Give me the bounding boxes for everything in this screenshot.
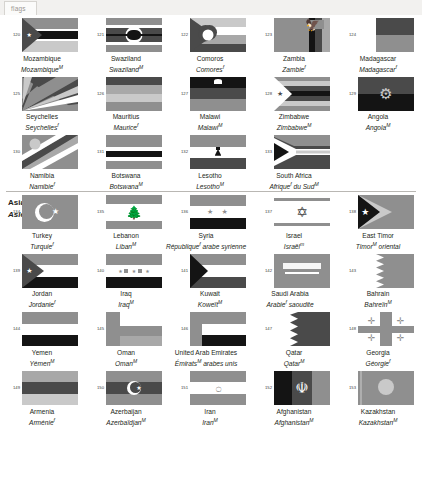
flag-cell-bahrain[interactable]: 143 Bahrain BahreïnM bbox=[336, 251, 420, 310]
flag-with-number: 125 bbox=[0, 77, 84, 111]
flag-index-number: 120 bbox=[6, 18, 22, 37]
flag-caption: Mozambique MozambiqueM bbox=[0, 55, 84, 74]
flag-cell-saudi[interactable]: 142 Saudi Arabia Arabief saoudite bbox=[252, 251, 336, 310]
flag-image-yemen bbox=[22, 312, 78, 346]
flag-with-number: 150 ★ bbox=[84, 371, 168, 405]
flag-with-number: 143 bbox=[336, 254, 420, 288]
flag-name-fr: Arménief bbox=[0, 416, 84, 427]
flag-index-number: 141 bbox=[174, 254, 190, 273]
flag-cell-zambia[interactable]: 123 🦅 Zambia Zambief bbox=[252, 15, 336, 74]
section-africa-cont: 120 ★ Mozambique MozambiqueM 121 Swazila… bbox=[0, 15, 422, 191]
flag-name-fr: YémenM bbox=[0, 357, 84, 368]
flags-reference-page: 120 ★ Mozambique MozambiqueM 121 Swazila… bbox=[0, 15, 422, 482]
flag-with-number: 131 bbox=[84, 135, 168, 169]
flag-caption: Armenia Arménief bbox=[0, 408, 84, 427]
flag-index-number: 138 bbox=[342, 195, 358, 214]
flag-cell-armenia[interactable]: 149 Armenia Arménief bbox=[0, 368, 84, 427]
flag-name-fr: QatarM bbox=[252, 357, 336, 368]
flag-name-en: Angola bbox=[336, 113, 420, 121]
flag-cell-madagascar[interactable]: 124 Madagascar Madagascarf bbox=[336, 15, 420, 74]
flag-cell-mozambique[interactable]: 120 ★ Mozambique MozambiqueM bbox=[0, 15, 84, 74]
flag-cell-zimbabwe[interactable]: 128 ★ Zimbabwe ZimbabweM bbox=[252, 74, 336, 133]
flag-name-en: Bahrain bbox=[336, 290, 420, 298]
flag-image-armenia bbox=[22, 371, 78, 405]
flag-caption: Georgia Géorgief bbox=[336, 349, 420, 368]
flag-cell-seychelles[interactable]: 125 Seychelles Seychellesf bbox=[0, 74, 84, 133]
flag-cell-syria[interactable]: 136 ★★ Syria Républiquef arabe syrienne bbox=[168, 192, 252, 251]
flag-name-en: Malawi bbox=[168, 113, 252, 121]
flag-with-number: 140 ★★★ bbox=[84, 254, 168, 288]
flag-cell-turkey[interactable]: 134 ★ Turkey Turquief bbox=[0, 192, 84, 251]
flag-name-fr: Namibief bbox=[0, 180, 84, 191]
flag-name-fr: Turquief bbox=[0, 240, 84, 251]
flag-cell-malawi[interactable]: 127 Malawi MalawiM bbox=[168, 74, 252, 133]
flag-cell-azerbaijan[interactable]: 150 ★ Azerbaijan AzerbaïdjanM bbox=[84, 368, 168, 427]
sections-container: 120 ★ Mozambique MozambiqueM 121 Swazila… bbox=[0, 15, 422, 427]
flag-cell-afghanistan[interactable]: 152 ☫ Afghanistan AfghanistanM bbox=[252, 368, 336, 427]
flag-image-bahrain bbox=[358, 254, 414, 288]
flag-cell-uae[interactable]: 146 United Arab Emirates ÉmiratsM arabes… bbox=[168, 309, 252, 368]
flag-caption: Jordan Jordanief bbox=[0, 290, 84, 309]
flag-with-number: 151 ۝ bbox=[168, 371, 252, 405]
flag-name-fr: AfghanistanM bbox=[252, 416, 336, 427]
flag-caption: Bahrain BahreïnM bbox=[336, 290, 420, 309]
flag-name-en: Turkey bbox=[0, 232, 84, 240]
flag-cell-comoros[interactable]: 122 Comoros Comoresf bbox=[168, 15, 252, 74]
flag-index-number: 128 bbox=[258, 77, 274, 96]
flag-name-en: Mauritius bbox=[84, 113, 168, 121]
flag-name-en: Zambia bbox=[252, 55, 336, 63]
flag-cell-iran[interactable]: 151 ۝ Iran IranM bbox=[168, 368, 252, 427]
flag-image-namibia bbox=[22, 135, 78, 169]
flag-image-turkey: ★ bbox=[22, 195, 78, 229]
flag-with-number: 129 ⚙ bbox=[336, 77, 420, 111]
flag-caption: Madagascar Madagascarf bbox=[336, 55, 420, 74]
flag-index-number: 136 bbox=[174, 195, 190, 214]
flag-image-southafrica bbox=[274, 135, 330, 169]
flag-cell-mauritius[interactable]: 126 Mauritius Mauricef bbox=[84, 74, 168, 133]
flag-cell-easttimor[interactable]: 138 ★ East Timor TimorM oriental bbox=[336, 192, 420, 251]
flag-caption: East Timor TimorM oriental bbox=[336, 232, 420, 251]
flag-cell-namibia[interactable]: 130 Namibia Namibief bbox=[0, 132, 84, 191]
flag-caption: Yemen YémenM bbox=[0, 349, 84, 368]
flag-name-en: Yemen bbox=[0, 349, 84, 357]
flag-cell-southafrica[interactable]: 133 South Africa Afriquef du SudM bbox=[252, 132, 336, 191]
flag-cell-lesotho[interactable]: 132 Lesotho LesothoM bbox=[168, 132, 252, 191]
flag-name-en: Botswana bbox=[84, 172, 168, 180]
flag-name-en: East Timor bbox=[336, 232, 420, 240]
flag-row: 139 ★ Jordan Jordanief 140 ★★★ Iraq Iraq… bbox=[0, 251, 422, 310]
flag-cell-georgia[interactable]: 148 ✛✛✛✛ Georgia Géorgief bbox=[336, 309, 420, 368]
flag-cell-angola[interactable]: 129 ⚙ Angola AngolaM bbox=[336, 74, 420, 133]
flag-caption: Qatar QatarM bbox=[252, 349, 336, 368]
flag-caption: Swaziland SwazilandM bbox=[84, 55, 168, 74]
flag-image-lebanon: 🌲 bbox=[106, 195, 162, 229]
flag-name-en: Comoros bbox=[168, 55, 252, 63]
flag-cell-botswana[interactable]: 131 Botswana BotswanaM bbox=[84, 132, 168, 191]
flag-cell-israel[interactable]: 137 ✡ Israel Israëlm bbox=[252, 192, 336, 251]
browser-tab-label: flags bbox=[11, 5, 26, 12]
flag-name-en: Iran bbox=[168, 408, 252, 416]
flag-cell-iraq[interactable]: 140 ★★★ Iraq IraqM bbox=[84, 251, 168, 310]
flag-name-en: Madagascar bbox=[336, 55, 420, 63]
flag-name-en: Syria bbox=[156, 232, 256, 240]
flag-with-number: 139 ★ bbox=[0, 254, 84, 288]
flag-cell-kazakhstan[interactable]: 153 Kazakhstan KazakhstanM bbox=[336, 368, 420, 427]
flag-index-number: 133 bbox=[258, 135, 274, 154]
flag-cell-jordan[interactable]: 139 ★ Jordan Jordanief bbox=[0, 251, 84, 310]
flag-name-en: Mozambique bbox=[0, 55, 84, 63]
flag-cell-qatar[interactable]: 147 Qatar QatarM bbox=[252, 309, 336, 368]
browser-tab-strip: flags bbox=[0, 0, 422, 16]
flag-cell-swaziland[interactable]: 121 Swaziland SwazilandM bbox=[84, 15, 168, 74]
flag-caption: South Africa Afriquef du SudM bbox=[252, 172, 336, 191]
browser-tab-flags[interactable]: flags bbox=[4, 1, 37, 15]
flag-name-fr: Comoresf bbox=[168, 63, 252, 74]
section-asia: Asia Asief 134 ★ Turkey Turquief 135 🌲 L bbox=[0, 191, 422, 427]
flag-index-number: 123 bbox=[258, 18, 274, 37]
flag-cell-yemen[interactable]: 144 Yemen YémenM bbox=[0, 309, 84, 368]
flag-image-zimbabwe: ★ bbox=[274, 77, 330, 111]
flag-name-en: Namibia bbox=[0, 172, 84, 180]
flag-image-mauritius bbox=[106, 77, 162, 111]
flag-with-number: 145 ✳ bbox=[84, 312, 168, 346]
flag-with-number: 138 ★ bbox=[336, 195, 420, 229]
flag-index-number: 130 bbox=[6, 135, 22, 154]
flag-name-en: Seychelles bbox=[0, 113, 84, 121]
